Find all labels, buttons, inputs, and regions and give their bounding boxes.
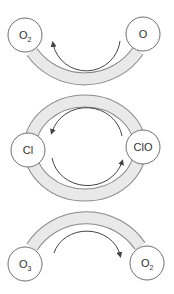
middle-lower-arrow <box>52 158 122 186</box>
bottom-arrow <box>54 231 120 255</box>
node-label: O <box>139 28 148 40</box>
node-subscript: 2 <box>28 36 32 43</box>
node-label: ClO <box>134 141 153 153</box>
node-o-top: O <box>126 17 160 51</box>
ozone-chlorine-cycle-diagram: O2 O Cl ClO O3 O2 <box>0 0 174 294</box>
node-o2-bottom: O2 <box>130 246 164 280</box>
middle-ring <box>30 101 140 195</box>
node-cl: Cl <box>11 133 45 167</box>
node-clo: ClO <box>126 130 160 164</box>
top-arrow <box>53 41 120 71</box>
node-label: Cl <box>23 144 33 156</box>
node-o2-top: O2 <box>8 18 42 52</box>
node-subscript: 2 <box>150 264 154 271</box>
node-o3-bottom: O3 <box>8 247 42 281</box>
band-fills <box>30 51 140 247</box>
node-subscript: 3 <box>28 265 32 272</box>
